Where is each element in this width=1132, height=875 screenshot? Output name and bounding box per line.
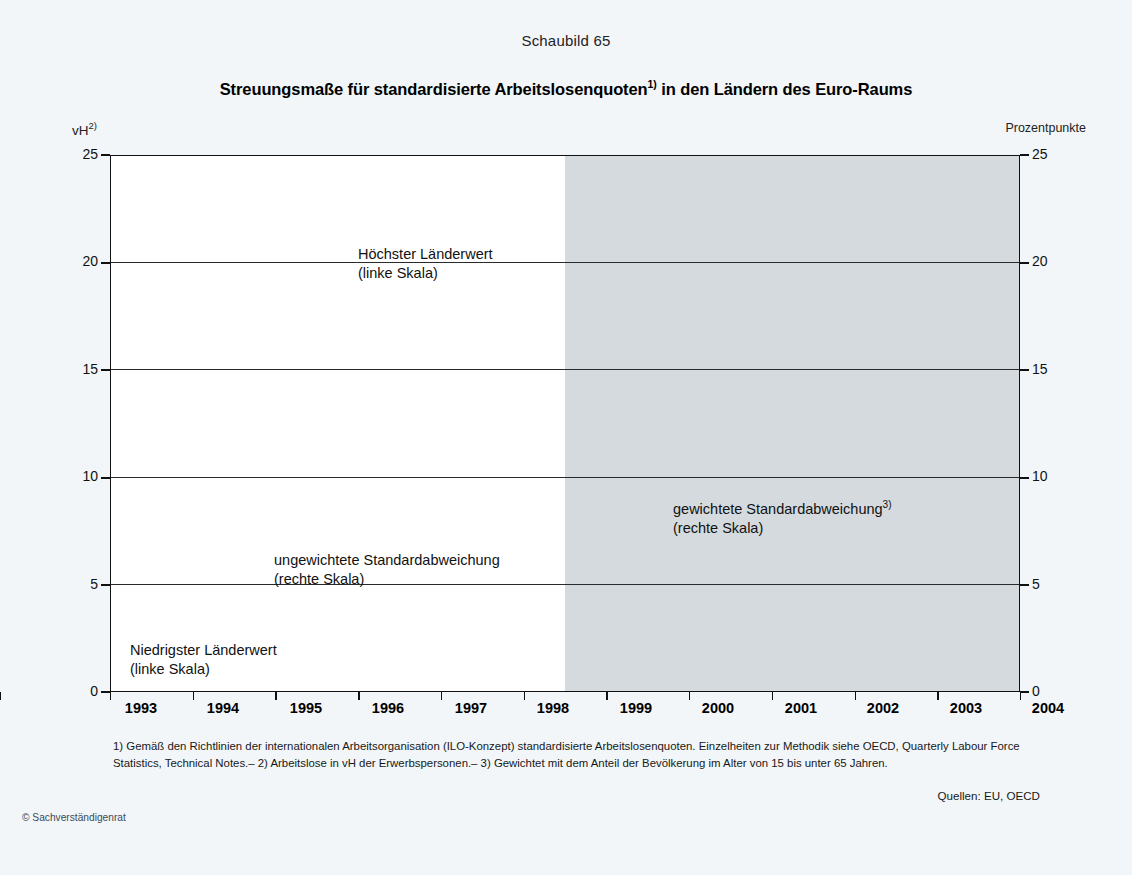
y-tick-left-25: 25 (58, 146, 98, 162)
x-tick-2003: 2003 (931, 700, 1001, 716)
annotation-ungewichtete-line1: ungewichtete Standardabweichung (274, 551, 500, 570)
x-tick-1994: 1994 (188, 700, 258, 716)
x-tick-2002: 2002 (848, 700, 918, 716)
footnotes: 1) Gemäß den Richtlinien der internation… (113, 738, 1062, 773)
left-axis-unit-footnote-marker: 2) (89, 120, 97, 131)
annotation-niedrigster-line1: Niedrigster Länderwert (130, 641, 277, 660)
x-tickmark-2004 (1020, 692, 1021, 700)
figure-title-tail: in den Ländern des Euro-Raums (657, 80, 913, 98)
y-tick-right-5: 5 (1032, 576, 1072, 592)
y-tick-right-25: 25 (1032, 146, 1072, 162)
x-tickmark-1996 (358, 692, 359, 700)
x-tickmark-1993 (110, 692, 111, 700)
figure-number: Schaubild 65 (0, 32, 1132, 49)
annotation-gewichtete-line2: (rechte Skala) (673, 519, 892, 538)
annotation-niedrigster-line2: (linke Skala) (130, 660, 277, 679)
copyright-note: © Sachverständigenrat (22, 812, 126, 823)
x-tickmark-2000 (689, 692, 690, 700)
left-axis-unit: vH2) (72, 120, 97, 138)
y-tickmark-right-10 (1020, 477, 1029, 479)
figure-title-footnote-marker: 1) (648, 78, 657, 90)
annotation-niedrigster-laenderwert: Niedrigster Länderwert (linke Skala) (130, 641, 277, 680)
chart-plot-area (110, 155, 1020, 692)
y-tick-left-0: 0 (58, 683, 98, 699)
y-tickmark-right-20 (1020, 262, 1029, 264)
figure-page: Schaubild 65 Streuungsmaße für standardi… (0, 0, 1132, 875)
y-tickmark-right-5 (1020, 584, 1029, 586)
plot-frame (110, 155, 1020, 692)
y-tickmark-right-15 (1020, 369, 1029, 371)
annotation-hoechster-line2: (linke Skala) (358, 264, 493, 283)
x-tickmark-1999 (606, 692, 607, 700)
left-axis-unit-text: vH (72, 123, 89, 138)
y-tickmark-left-10 (101, 477, 110, 479)
y-tickmark-right-25 (1020, 154, 1029, 156)
annotation-ungewichtete-standardabweichung: ungewichtete Standardabweichung (rechte … (274, 551, 500, 590)
x-tickmark-1995 (275, 692, 276, 700)
x-tickmark-1997 (441, 692, 442, 700)
annotation-ungewichtete-line2: (rechte Skala) (274, 570, 500, 589)
y-tick-left-5: 5 (58, 576, 98, 592)
annotation-gewichtete-text: gewichtete Standardabweichung (673, 501, 883, 517)
right-axis-unit: Prozentpunkte (1005, 121, 1086, 135)
x-tickmark-2001 (772, 692, 773, 700)
x-tickmark-2003 (937, 692, 938, 700)
y-tick-right-20: 20 (1032, 253, 1072, 269)
x-tickmark-2002 (855, 692, 856, 700)
x-tick-1998: 1998 (518, 700, 588, 716)
x-tick-1999: 1999 (601, 700, 671, 716)
y-tick-right-0: 0 (1032, 683, 1072, 699)
y-tick-left-10: 10 (58, 468, 98, 484)
annotation-hoechster-line1: Höchster Länderwert (358, 245, 493, 264)
y-tick-right-15: 15 (1032, 361, 1072, 377)
x-tick-1995: 1995 (271, 700, 341, 716)
x-tick-2000: 2000 (683, 700, 753, 716)
y-tickmark-left-5 (101, 584, 110, 586)
x-tick-1996: 1996 (353, 700, 423, 716)
y-tickmark-left-20 (101, 262, 110, 264)
y-tick-left-15: 15 (58, 361, 98, 377)
x-tick-2001: 2001 (766, 700, 836, 716)
x-tickmark-1998 (524, 692, 525, 700)
x-tickmark-1994 (193, 692, 194, 700)
annotation-gewichtete-footnote-marker: 3) (883, 499, 892, 510)
y-tickmark-left-0 (101, 691, 110, 693)
figure-title: Streuungsmaße für standardisierte Arbeit… (60, 78, 1072, 99)
y-tickmark-left-15 (101, 369, 110, 371)
x-tick-2004: 2004 (1013, 700, 1083, 716)
sources-note: Quellen: EU, OECD (938, 789, 1040, 802)
x-tick-1997: 1997 (436, 700, 506, 716)
y-tick-left-20: 20 (58, 253, 98, 269)
figure-title-main: Streuungsmaße für standardisierte Arbeit… (220, 80, 648, 98)
annotation-gewichtete-line1: gewichtete Standardabweichung3) (673, 498, 892, 519)
annotation-hoechster-laenderwert: Höchster Länderwert (linke Skala) (358, 245, 493, 284)
x-tick-1993: 1993 (106, 700, 176, 716)
y-tickmark-left-25 (101, 154, 110, 156)
annotation-gewichtete-standardabweichung: gewichtete Standardabweichung3) (rechte … (673, 498, 892, 538)
y-tick-right-10: 10 (1032, 468, 1072, 484)
